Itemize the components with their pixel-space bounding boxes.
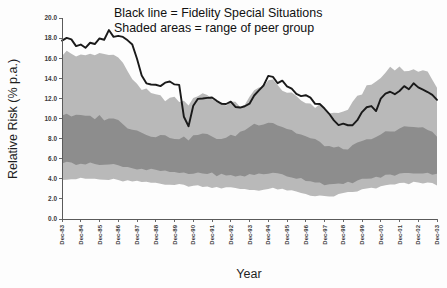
y-tick-label: 16.0 <box>45 55 58 62</box>
x-tick-label: Dec-00 <box>378 224 384 244</box>
y-tick-label: 18.0 <box>45 34 58 41</box>
x-tick-label: Dec-01 <box>397 224 403 244</box>
x-tick-label: Dec-93 <box>247 224 253 244</box>
y-tick-label: 2.0 <box>48 195 57 202</box>
x-tick-label: Dec-83 <box>59 224 65 244</box>
y-tick-label: 20.0 <box>45 14 58 21</box>
x-tick-label: Dec-92 <box>228 224 234 244</box>
relative-risk-chart: 0.02.04.06.08.010.012.014.016.018.020.0 … <box>0 0 447 288</box>
legend-black-line-note: Black line = Fidelity Special Situations <box>114 6 322 20</box>
y-tick-label: 12.0 <box>45 95 58 102</box>
x-tick-label: Dec-90 <box>190 224 196 244</box>
y-tick-label: 8.0 <box>48 135 57 142</box>
x-tick-label: Dec-87 <box>134 224 140 244</box>
x-tick-label: Dec-03 <box>434 224 440 244</box>
y-axis-tick-labels: 0.02.04.06.08.010.012.014.016.018.020.0 <box>45 14 58 222</box>
x-tick-label: Dec-94 <box>265 224 271 244</box>
y-tick-label: 14.0 <box>45 75 58 82</box>
x-tick-label: Dec-96 <box>303 224 309 244</box>
y-tick-label: 4.0 <box>48 175 57 182</box>
x-tick-label: Dec-84 <box>78 224 84 244</box>
y-tick-label: 6.0 <box>48 155 57 162</box>
x-tick-label: Dec-02 <box>415 224 421 244</box>
x-axis-ticks <box>62 219 437 222</box>
x-tick-label: Dec-97 <box>322 224 328 244</box>
legend-shaded-area-note: Shaded areas = range of peer group <box>114 21 314 35</box>
x-axis-tick-labels: Dec-83Dec-84Dec-85Dec-86Dec-87Dec-88Dec-… <box>59 224 440 244</box>
x-tick-label: Dec-99 <box>359 224 365 244</box>
chart-screenshot: 0.02.04.06.08.010.012.014.016.018.020.0 … <box>0 0 447 288</box>
x-tick-label: Dec-86 <box>115 224 121 244</box>
x-tick-label: Dec-88 <box>153 224 159 244</box>
x-tick-label: Dec-98 <box>340 224 346 244</box>
y-axis-title: Relative Risk (% p.a.) <box>6 59 20 179</box>
x-axis-title: Year <box>236 267 261 281</box>
x-tick-label: Dec-95 <box>284 224 290 244</box>
x-tick-label: Dec-85 <box>97 224 103 244</box>
legend: Black line = Fidelity Special Situations… <box>114 6 322 35</box>
x-tick-label: Dec-89 <box>172 224 178 244</box>
y-tick-label: 10.0 <box>45 115 58 122</box>
y-tick-label: 0.0 <box>48 215 57 222</box>
x-tick-label: Dec-91 <box>209 224 215 244</box>
